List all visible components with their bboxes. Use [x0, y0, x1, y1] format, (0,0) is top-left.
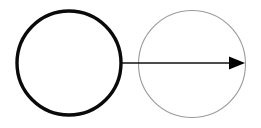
diagram-canvas: [0, 0, 261, 128]
diagram-svg: [0, 0, 261, 128]
